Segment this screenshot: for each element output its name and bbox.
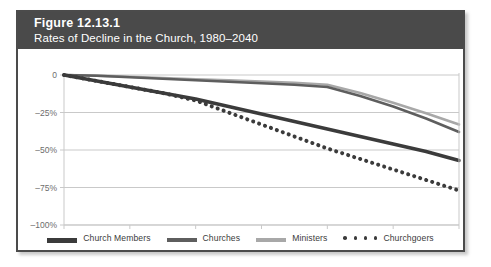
legend-item-churchgoers[interactable]: Churchgoers bbox=[343, 233, 433, 243]
chart-legend: Church Members Churches Ministers bbox=[18, 227, 463, 249]
figure-body: 0–25%–50%–75%–100% 198019902000201020202… bbox=[18, 49, 463, 250]
y-tick-label: –25% bbox=[35, 108, 57, 118]
legend-label-churches: Churches bbox=[203, 233, 241, 243]
figure-number: 12.13.1 bbox=[77, 16, 120, 30]
plot-area: 0–25%–50%–75%–100% 198019902000201020202… bbox=[18, 49, 463, 250]
legend-item-church-members[interactable]: Church Members bbox=[47, 233, 150, 243]
y-tick-label: 0 bbox=[52, 70, 57, 80]
y-tick-label: –75% bbox=[35, 183, 57, 193]
legend-swatch-churchgoers bbox=[343, 236, 377, 240]
line-chart: 0–25%–50%–75%–100% 198019902000201020202… bbox=[18, 49, 463, 229]
legend-item-ministers[interactable]: Ministers bbox=[256, 233, 327, 243]
figure-header: Figure 12.13.1 Rates of Decline in the C… bbox=[18, 12, 463, 49]
figure-label: Figure bbox=[34, 16, 73, 30]
legend-label-church-members: Church Members bbox=[83, 233, 150, 243]
legend-label-ministers: Ministers bbox=[292, 233, 327, 243]
legend-item-churches[interactable]: Churches bbox=[167, 233, 241, 243]
figure-subtitle: Rates of Decline in the Church, 1980–204… bbox=[34, 31, 463, 46]
y-tick-label: –50% bbox=[35, 145, 57, 155]
figure-card: Figure 12.13.1 Rates of Decline in the C… bbox=[16, 10, 465, 252]
figure-number-line: Figure 12.13.1 bbox=[34, 15, 463, 31]
legend-label-churchgoers: Churchgoers bbox=[383, 233, 433, 243]
figure-page: Figure 12.13.1 Rates of Decline in the C… bbox=[0, 0, 491, 267]
